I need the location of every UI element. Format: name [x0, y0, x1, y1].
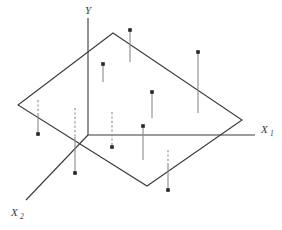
observation-stem — [110, 112, 114, 149]
x2-axis-line — [26, 135, 88, 200]
observation-stem — [196, 50, 200, 113]
x2-axis-label: X — [10, 206, 19, 218]
data-point-marker — [150, 90, 154, 94]
data-point-marker — [196, 50, 200, 54]
data-point-marker — [128, 28, 132, 32]
data-point-marker — [101, 62, 105, 66]
observation-stem — [101, 62, 105, 82]
data-point-marker — [166, 188, 170, 192]
axis-labels-group: Y X 1 X 2 — [10, 4, 274, 221]
axes-group — [26, 18, 255, 200]
x1-axis-subscript: 1 — [270, 129, 274, 138]
data-point-marker — [110, 145, 114, 149]
observation-stem — [150, 90, 154, 118]
figure-canvas: Y X 1 X 2 — [0, 0, 282, 230]
x1-axis-label: X — [260, 123, 269, 135]
y-axis-label: Y — [85, 4, 93, 16]
data-point-marker — [73, 171, 77, 175]
regression-plane-diagram: Y X 1 X 2 — [0, 0, 282, 230]
observation-stem — [141, 124, 145, 160]
data-point-marker — [36, 132, 40, 136]
x2-axis-subscript: 2 — [20, 212, 24, 221]
data-point-marker — [141, 124, 145, 128]
